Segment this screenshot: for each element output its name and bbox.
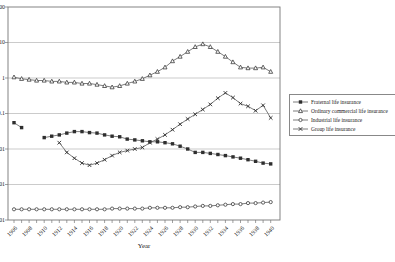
series-group-life-insurance <box>58 91 273 167</box>
legend-label: Group life insurance <box>311 126 355 132</box>
legend-label: Ordinary commercial life insurance <box>311 108 388 114</box>
x-marker-icon <box>292 125 309 133</box>
legend-item: Group life insurance <box>292 124 395 133</box>
legend-item: Fraternal life insurance <box>292 97 395 106</box>
y-axis-label: 0.1 <box>0 110 5 117</box>
legend: Fraternal life insurance Ordinary commer… <box>289 94 395 136</box>
y-axis-label: 10 <box>0 39 5 46</box>
y-axis-label: 0.001 <box>0 181 5 188</box>
y-axis-label: 100 <box>0 4 5 11</box>
series-ordinary-commercial-life-insurance <box>12 42 273 89</box>
circle-marker-icon <box>292 116 309 124</box>
x-axis-title: Year <box>8 242 280 249</box>
y-axis-label: 0.01 <box>0 146 5 153</box>
series-industrial-life-insurance <box>12 201 272 211</box>
series-fraternal-life-insurance <box>12 121 272 166</box>
chart-figure: 1001010.10.010.0010.0001 190619081910191… <box>0 0 395 262</box>
legend-label: Fraternal life insurance <box>311 99 361 105</box>
triangle-marker-icon <box>292 107 309 115</box>
legend-label: Industrial life insurance <box>311 117 362 123</box>
y-axis-label: 1 <box>0 75 5 82</box>
legend-item: Industrial life insurance <box>292 115 395 124</box>
legend-item: Ordinary commercial life insurance <box>292 106 395 115</box>
y-axis-label: 0.0001 <box>0 217 5 224</box>
square-marker-icon <box>292 98 309 106</box>
